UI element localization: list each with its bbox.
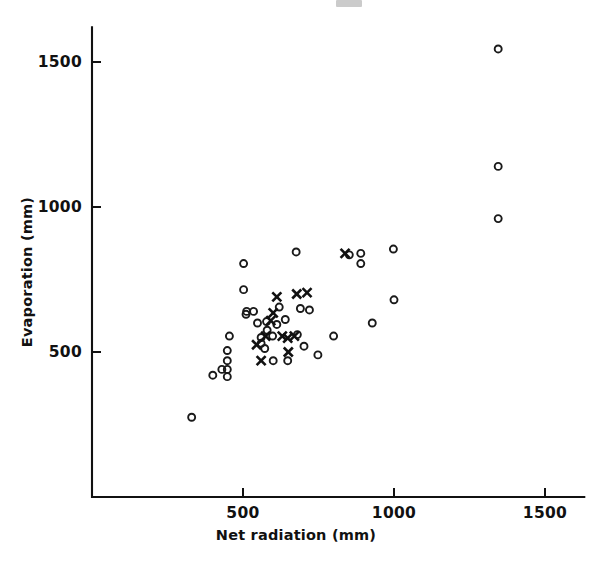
data-point-circle bbox=[314, 351, 321, 358]
data-point-circle bbox=[269, 333, 276, 340]
data-point-cross bbox=[272, 292, 281, 301]
data-point-circle bbox=[224, 357, 231, 364]
data-point-circle bbox=[224, 347, 231, 354]
data-point-circle bbox=[254, 320, 261, 327]
data-point-circle bbox=[226, 333, 233, 340]
data-point-circle bbox=[240, 260, 247, 267]
plot-canvas bbox=[0, 0, 592, 564]
scatter-plot-figure: 1500 1000 500 500 1000 1500 Net radiatio… bbox=[0, 0, 592, 564]
y-tick-label-1500: 1500 bbox=[20, 53, 82, 71]
data-point-cross bbox=[257, 356, 266, 365]
data-point-circle bbox=[495, 215, 502, 222]
data-point-circle bbox=[209, 372, 216, 379]
data-point-circle bbox=[188, 414, 195, 421]
x-tick-label-1000: 1000 bbox=[354, 504, 434, 522]
data-point-circle bbox=[261, 345, 268, 352]
axis-ticks bbox=[92, 62, 545, 497]
data-point-circle bbox=[293, 248, 300, 255]
data-point-circle bbox=[390, 246, 397, 253]
axis-spines bbox=[92, 27, 584, 497]
data-point-cross bbox=[292, 290, 301, 299]
data-point-circle bbox=[391, 296, 398, 303]
data-point-circle bbox=[301, 343, 308, 350]
data-point-cross bbox=[284, 348, 293, 357]
data-markers bbox=[188, 45, 502, 420]
data-point-cross bbox=[341, 249, 350, 258]
data-point-circle bbox=[357, 250, 364, 257]
data-point-circle bbox=[495, 45, 502, 52]
data-point-circle bbox=[306, 306, 313, 313]
data-point-circle bbox=[284, 357, 291, 364]
data-point-circle bbox=[369, 320, 376, 327]
data-point-circle bbox=[270, 357, 277, 364]
data-point-cross bbox=[269, 308, 278, 317]
axes bbox=[92, 27, 584, 497]
data-point-circle bbox=[282, 316, 289, 323]
x-tick-label-1500: 1500 bbox=[505, 504, 585, 522]
data-point-circle bbox=[330, 333, 337, 340]
data-point-cross bbox=[303, 288, 312, 297]
x-tick-label-500: 500 bbox=[203, 504, 283, 522]
data-point-circle bbox=[250, 308, 257, 315]
data-point-circle bbox=[224, 373, 231, 380]
data-point-circle bbox=[357, 260, 364, 267]
y-axis-title: Evaporation (mm) bbox=[19, 197, 35, 347]
data-point-cross bbox=[252, 340, 261, 349]
x-axis-title: Net radiation (mm) bbox=[0, 527, 592, 543]
data-point-circle bbox=[495, 163, 502, 170]
data-point-cross bbox=[266, 316, 275, 325]
data-point-circle bbox=[240, 286, 247, 293]
data-point-circle bbox=[297, 305, 304, 312]
